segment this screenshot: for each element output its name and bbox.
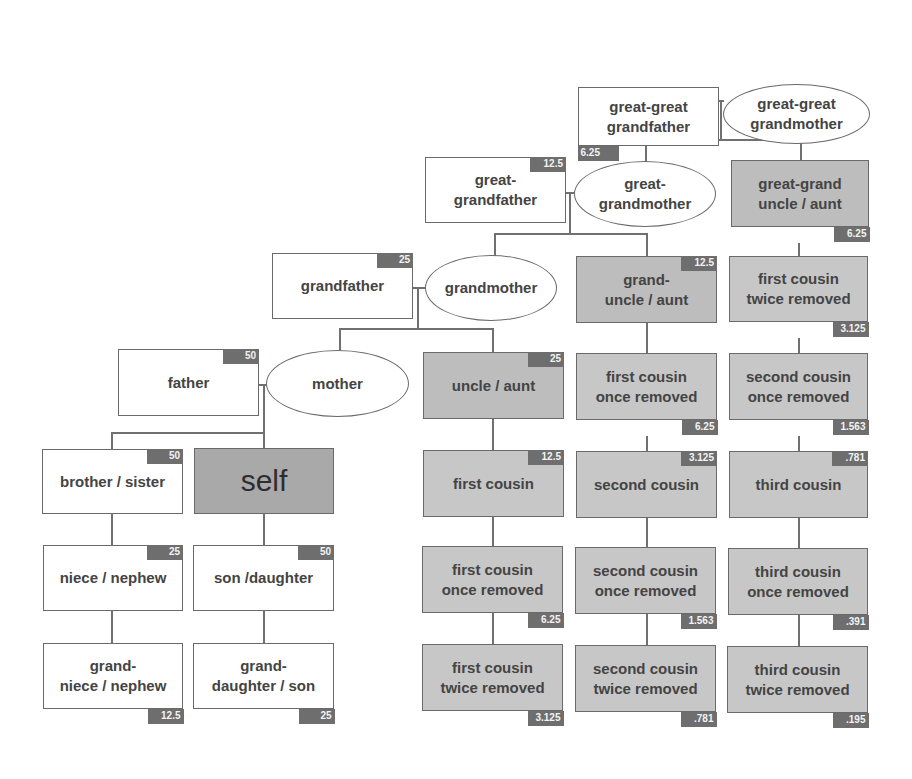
node-label: grand- uncle / aunt	[605, 270, 688, 310]
family-tree-diagram: great-great grandfather 6.25 great-great…	[0, 0, 912, 779]
dna-percent-badge: 25	[528, 352, 564, 367]
connector	[492, 328, 494, 352]
node-label: first cousin once removed	[596, 367, 698, 407]
connector	[646, 322, 648, 353]
node-great-great-grandmother: great-great grandmother	[723, 84, 870, 144]
node-first-cousin-once-removed-upper: first cousin once removed 6.25	[576, 353, 717, 420]
dna-percent-badge: .781	[832, 451, 868, 466]
connector	[111, 513, 113, 546]
dna-percent-badge: 12.5	[530, 157, 566, 172]
node-label: first cousin	[453, 474, 534, 494]
dna-percent-badge: 12.5	[528, 450, 564, 465]
node-label: brother / sister	[60, 472, 165, 492]
node-great-grandmother: great- grandmother	[574, 161, 716, 227]
connector	[492, 612, 494, 645]
node-label: first cousin once removed	[442, 560, 544, 600]
connector	[417, 287, 419, 329]
node-first-cousin-twice-removed: first cousin twice removed 3.125	[422, 644, 563, 711]
node-label: third cousin twice removed	[745, 660, 849, 700]
node-grand-niece-nephew: grand- niece / nephew 12.5	[43, 643, 183, 709]
node-label: uncle / aunt	[452, 376, 535, 396]
connector	[492, 516, 494, 548]
dna-percent-badge: 50	[298, 545, 334, 560]
node-second-cousin-once-removed: second cousin once removed 1.563	[575, 547, 716, 614]
connector	[494, 233, 647, 235]
connector	[339, 328, 341, 351]
node-label: grand- daughter / son	[212, 656, 315, 696]
dna-percent-badge: 25	[377, 253, 413, 268]
dna-percent-badge: .195	[833, 713, 869, 728]
node-father: father 50	[118, 349, 259, 416]
node-second-cousin-twice-removed: second cousin twice removed .781	[575, 645, 716, 712]
connector	[798, 243, 800, 257]
node-label: father	[168, 373, 210, 393]
node-great-grand-uncle-aunt: great-grand uncle / aunt 6.25	[731, 160, 869, 227]
dna-percent-badge: 3.125	[681, 451, 717, 466]
connector	[492, 418, 494, 451]
node-third-cousin-twice-removed: third cousin twice removed .195	[727, 646, 868, 713]
dna-percent-badge: .391	[833, 615, 869, 630]
dna-percent-badge: 50	[223, 349, 259, 364]
connector	[111, 610, 113, 644]
node-label: great-great grandmother	[750, 94, 843, 134]
node-grandfather: grandfather 25	[272, 253, 413, 319]
connector	[646, 233, 648, 257]
dna-percent-badge: 6.25	[528, 613, 564, 628]
node-label: third cousin once removed	[747, 562, 849, 602]
node-label: mother	[312, 374, 363, 394]
node-label: second cousin once removed	[746, 367, 851, 407]
node-second-cousin: second cousin 3.125	[576, 451, 717, 518]
dna-percent-badge: 6.25	[578, 146, 619, 161]
node-niece-nephew: niece / nephew 25	[43, 545, 183, 611]
dna-percent-badge: .781	[681, 712, 717, 727]
dna-percent-badge: 12.5	[681, 256, 717, 271]
connector	[263, 513, 265, 546]
dna-percent-badge: 50	[147, 449, 183, 464]
node-third-cousin-once-removed: third cousin once removed .391	[728, 548, 868, 615]
connector	[798, 614, 800, 647]
node-label: great-grand uncle / aunt	[758, 174, 841, 214]
node-label: great- grandfather	[454, 170, 537, 210]
dna-percent-badge: 25	[299, 709, 335, 724]
connector	[798, 517, 800, 549]
node-uncle-aunt: uncle / aunt 25	[423, 352, 564, 419]
connector	[494, 233, 496, 257]
dna-percent-badge: 1.563	[833, 420, 869, 435]
dna-percent-badge: 3.125	[528, 711, 564, 726]
node-second-cousin-once-removed-upper: second cousin once removed 1.563	[729, 353, 868, 420]
node-first-cousin-once-removed: first cousin once removed 6.25	[422, 546, 563, 613]
node-grandmother: grandmother	[425, 255, 557, 321]
dna-percent-badge: 25	[147, 545, 183, 560]
connector	[263, 384, 265, 450]
connector	[798, 338, 800, 353]
connector	[339, 328, 493, 330]
node-label: first cousin twice removed	[440, 658, 544, 698]
node-grand-daughter-son: grand- daughter / son 25	[193, 643, 334, 709]
connector	[111, 432, 264, 434]
node-grand-uncle-aunt: grand- uncle / aunt 12.5	[576, 256, 717, 323]
node-first-cousin-twice-removed-upper: first cousin twice removed 3.125	[729, 256, 868, 322]
connector	[720, 100, 722, 120]
node-label: great-great grandfather	[607, 97, 690, 137]
node-label: niece / nephew	[60, 568, 167, 588]
node-third-cousin: third cousin .781	[729, 451, 868, 518]
dna-percent-badge: 12.5	[148, 709, 184, 724]
node-label: first cousin twice removed	[746, 269, 850, 309]
node-label: second cousin once removed	[593, 561, 698, 601]
node-great-grandfather: great- grandfather 12.5	[425, 157, 566, 223]
dna-percent-badge: 1.563	[681, 614, 717, 629]
node-great-great-grandfather: great-great grandfather 6.25	[578, 87, 719, 146]
node-label: son /daughter	[214, 568, 313, 588]
connector	[646, 613, 648, 646]
connector	[569, 192, 571, 234]
node-son-daughter: son /daughter 50	[193, 545, 334, 611]
connector	[263, 610, 265, 644]
connector	[412, 287, 426, 289]
connector	[720, 120, 722, 140]
node-label: great- grandmother	[599, 174, 692, 214]
connector	[111, 432, 113, 450]
node-label: second cousin twice removed	[593, 659, 698, 699]
node-label: third cousin	[756, 475, 842, 495]
dna-percent-badge: 3.125	[833, 322, 869, 337]
node-label: grandmother	[445, 278, 538, 298]
